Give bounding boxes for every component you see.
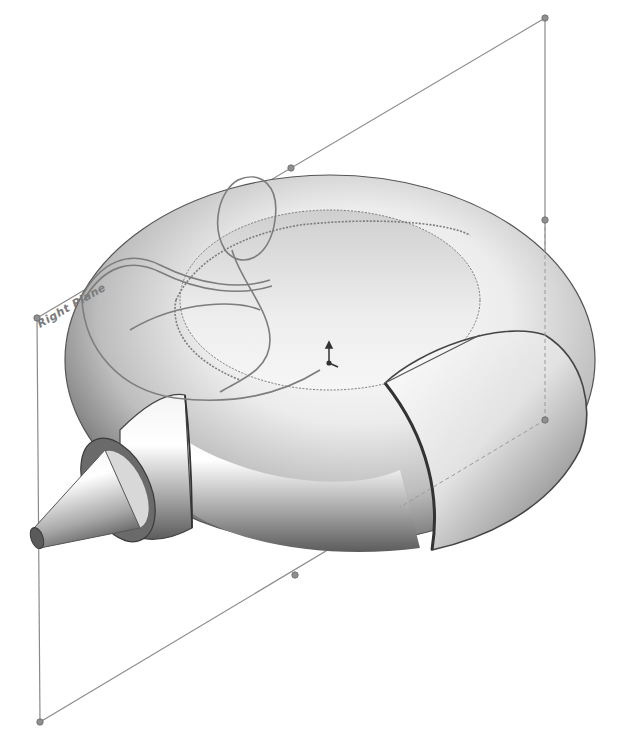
plane-handle-bottom-mid[interactable] (292, 572, 298, 578)
plane-handle-right-mid[interactable] (542, 217, 548, 223)
plane-handle-top-left[interactable] (34, 315, 40, 321)
plane-edge-left (37, 318, 40, 722)
plane-handle-top-right[interactable] (542, 15, 548, 21)
plane-handle-top-mid[interactable] (288, 165, 294, 171)
graphics-viewport[interactable]: Right Plane (0, 0, 625, 753)
plane-handle-bottom-right[interactable] (542, 417, 548, 423)
plane-handle-bottom-left[interactable] (37, 719, 43, 725)
